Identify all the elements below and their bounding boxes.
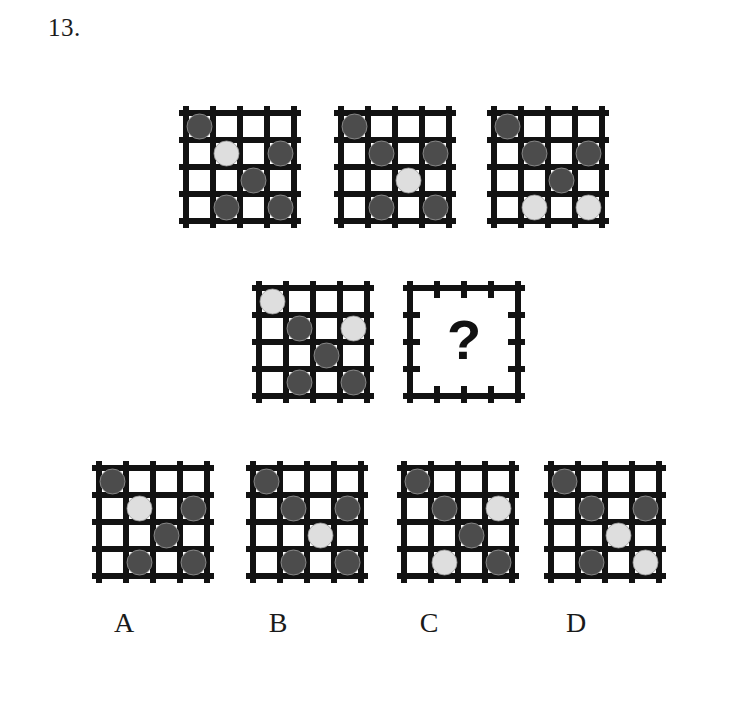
dark-circle bbox=[549, 168, 574, 193]
dark-circle bbox=[576, 141, 601, 166]
question-mark-glyph: ? bbox=[447, 308, 481, 371]
dark-circle bbox=[154, 523, 179, 548]
answer-option-C[interactable] bbox=[391, 455, 525, 589]
dark-circle bbox=[495, 114, 520, 139]
answer-option-B[interactable] bbox=[240, 455, 374, 589]
dark-circle bbox=[287, 316, 312, 341]
dark-circle bbox=[369, 195, 394, 220]
light-circle bbox=[396, 168, 421, 193]
dark-circle bbox=[314, 343, 339, 368]
dark-circle bbox=[214, 195, 239, 220]
dark-circle bbox=[633, 496, 658, 521]
dark-circle bbox=[459, 523, 484, 548]
answer-option-label-A[interactable]: A bbox=[104, 607, 144, 639]
answer-option-label-D[interactable]: D bbox=[556, 607, 596, 639]
dark-circle bbox=[405, 469, 430, 494]
dark-circle bbox=[181, 550, 206, 575]
dark-circle bbox=[241, 168, 266, 193]
dark-circle bbox=[187, 114, 212, 139]
dark-circle bbox=[287, 370, 312, 395]
dark-circle bbox=[181, 496, 206, 521]
answer-option-A[interactable] bbox=[86, 455, 220, 589]
dark-circle bbox=[552, 469, 577, 494]
dark-circle bbox=[579, 496, 604, 521]
light-circle bbox=[486, 496, 511, 521]
answer-option-label-C[interactable]: C bbox=[409, 607, 449, 639]
matrix-cell-3 bbox=[481, 100, 615, 234]
light-circle bbox=[606, 523, 631, 548]
dark-circle bbox=[127, 550, 152, 575]
dark-circle bbox=[335, 496, 360, 521]
dark-circle bbox=[369, 141, 394, 166]
light-circle bbox=[432, 550, 457, 575]
dark-circle bbox=[423, 141, 448, 166]
light-circle bbox=[214, 141, 239, 166]
dark-circle bbox=[342, 114, 367, 139]
dark-circle bbox=[335, 550, 360, 575]
dark-circle bbox=[254, 469, 279, 494]
dark-circle bbox=[268, 195, 293, 220]
light-circle bbox=[633, 550, 658, 575]
dark-circle bbox=[486, 550, 511, 575]
light-circle bbox=[522, 195, 547, 220]
dark-circle bbox=[100, 469, 125, 494]
answer-option-label-B[interactable]: B bbox=[258, 607, 298, 639]
dark-circle bbox=[579, 550, 604, 575]
answer-option-D[interactable] bbox=[538, 455, 672, 589]
dark-circle bbox=[423, 195, 448, 220]
light-circle bbox=[341, 316, 366, 341]
matrix-cell-2 bbox=[328, 100, 462, 234]
matrix-cell-1 bbox=[173, 100, 307, 234]
dark-circle bbox=[268, 141, 293, 166]
dark-circle bbox=[522, 141, 547, 166]
light-circle bbox=[260, 289, 285, 314]
question-number: 13. bbox=[48, 14, 81, 42]
dark-circle bbox=[281, 550, 306, 575]
dark-circle bbox=[281, 496, 306, 521]
light-circle bbox=[576, 195, 601, 220]
matrix-cell-4 bbox=[246, 275, 380, 409]
light-circle bbox=[308, 523, 333, 548]
matrix-cell-missing: ? bbox=[397, 275, 531, 409]
dark-circle bbox=[341, 370, 366, 395]
dark-circle bbox=[432, 496, 457, 521]
light-circle bbox=[127, 496, 152, 521]
